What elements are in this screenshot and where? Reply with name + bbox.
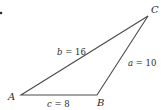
vertex-label-c: C bbox=[151, 4, 159, 15]
side-value-c: = 8 bbox=[52, 99, 70, 109]
side-label-a: a = 10 bbox=[128, 58, 156, 68]
side-label-b: b = 16 bbox=[57, 47, 86, 57]
bullet-dot bbox=[0, 12, 2, 15]
triangle-diagram: A B C b = 16 a = 10 c = 8 bbox=[0, 0, 161, 110]
vertex-label-a: A bbox=[7, 91, 15, 102]
side-label-c: c = 8 bbox=[47, 99, 70, 109]
side-value-b: = 16 bbox=[62, 47, 85, 57]
vertex-label-b: B bbox=[96, 97, 104, 108]
side-value-a: = 10 bbox=[133, 58, 156, 68]
